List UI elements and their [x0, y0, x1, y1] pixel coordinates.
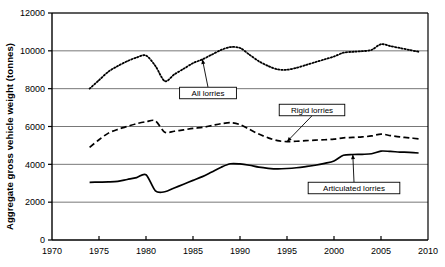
- y-tick-label-8000: 8000: [25, 84, 45, 94]
- y-tick-label-6000: 6000: [25, 122, 45, 132]
- y-axis-title: Aggregate gross vehicle weight (tonnes): [4, 43, 15, 230]
- annotation-label-rigid-lorries: Rigid lorries: [291, 106, 333, 115]
- x-tick-label-2000: 2000: [324, 246, 344, 256]
- chart-container: 020004000600080001000012000 197019751980…: [0, 0, 445, 267]
- y-tick-label-4000: 4000: [25, 160, 45, 170]
- y-tick-label-12000: 12000: [20, 8, 45, 18]
- x-tick-label-1990: 1990: [230, 246, 250, 256]
- y-tick-label-10000: 10000: [20, 46, 45, 56]
- x-tick-label-1975: 1975: [89, 246, 109, 256]
- x-tick-label-1980: 1980: [136, 246, 156, 256]
- x-tick-label-2005: 2005: [371, 246, 391, 256]
- y-tick-label-2000: 2000: [25, 197, 45, 207]
- annotation-label-all-lorries: All lorries: [192, 89, 225, 98]
- x-tick-label-1970: 1970: [42, 246, 62, 256]
- x-tick-label-1985: 1985: [183, 246, 203, 256]
- x-tick-label-1995: 1995: [277, 246, 297, 256]
- annotation-label-articulated-lorries: Articulated lorries: [323, 184, 385, 193]
- y-tick-label-0: 0: [40, 235, 45, 245]
- lorry-weight-line-chart: 020004000600080001000012000 197019751980…: [0, 0, 445, 267]
- chart-background: [0, 0, 445, 267]
- x-tick-label-2010: 2010: [418, 246, 438, 256]
